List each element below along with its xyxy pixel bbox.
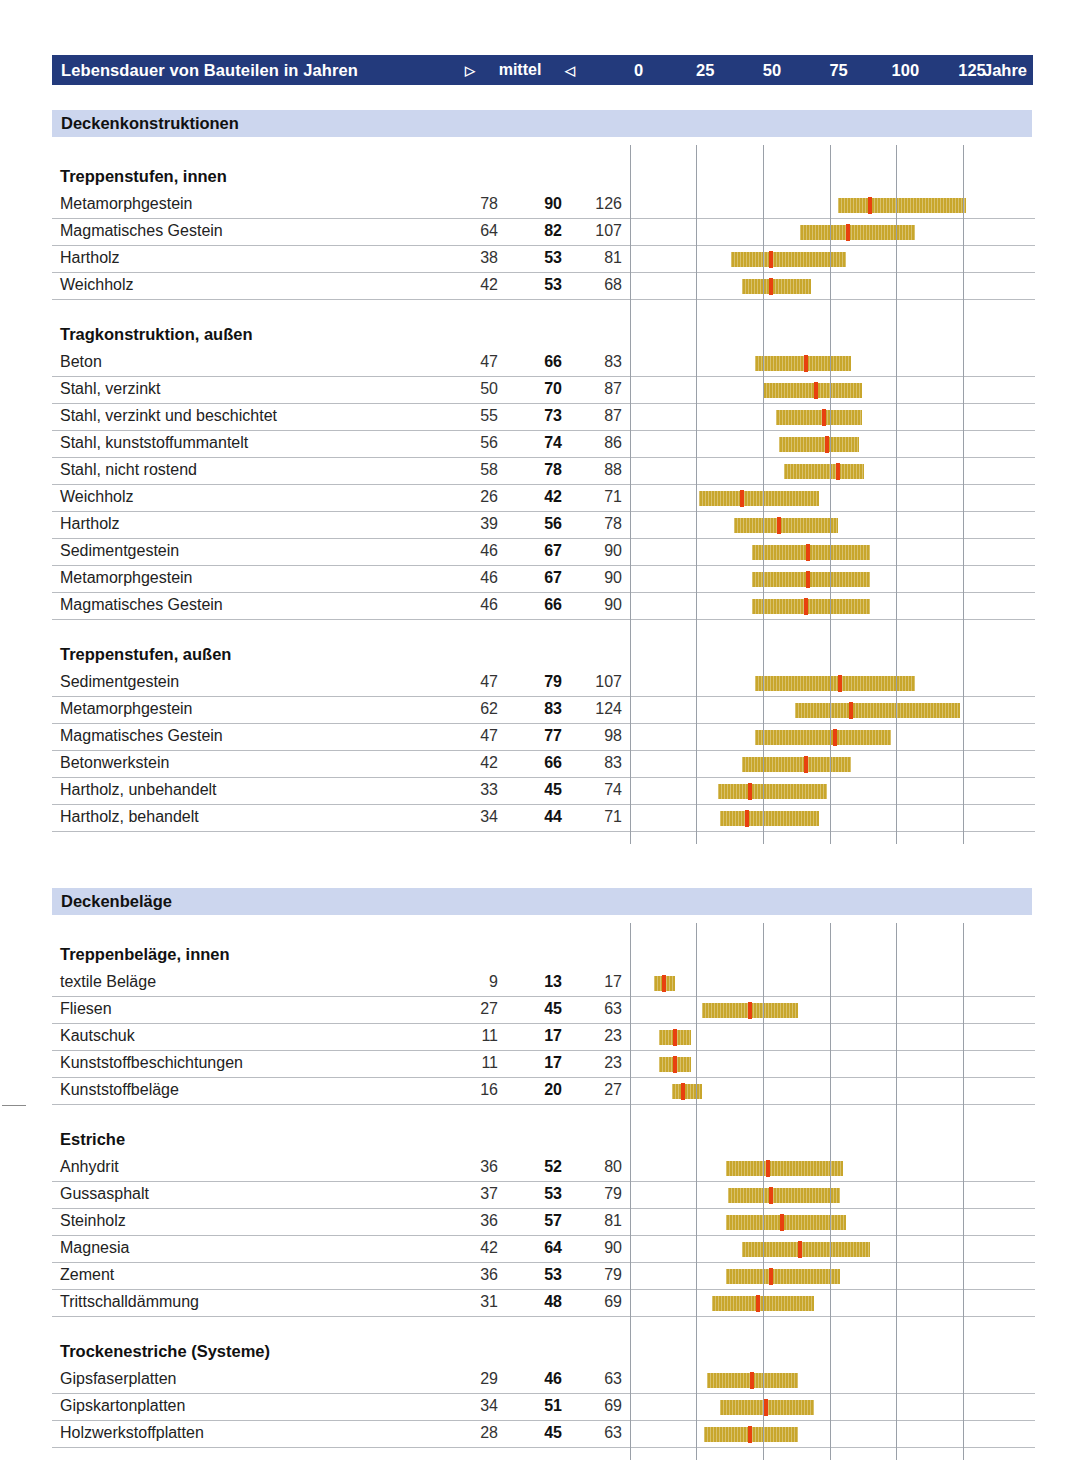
value-min: 26 [438, 488, 498, 506]
row-label: Steinholz [60, 1212, 126, 1230]
group-title-treppenstufen-innen: Treppenstufen, innen [60, 167, 227, 186]
gridline-125 [963, 923, 964, 1460]
axis-tick-25: 25 [696, 61, 714, 80]
value-min: 31 [438, 1293, 498, 1311]
median-marker [769, 1187, 773, 1204]
value-max: 27 [566, 1081, 622, 1099]
section-band-1: Deckenkonstruktionen [52, 110, 1032, 137]
range-bar [742, 279, 811, 294]
value-max: 81 [566, 1212, 622, 1230]
row-label: Hartholz [60, 249, 120, 267]
axis-tick-0: 0 [634, 61, 643, 80]
value-max: 23 [566, 1054, 622, 1072]
table-row: Magmatisches Gestein477798 [52, 724, 1035, 751]
median-marker [868, 197, 872, 214]
value-mittel: 56 [502, 515, 562, 533]
group-title-estriche: Estriche [60, 1130, 125, 1149]
value-min: 28 [438, 1424, 498, 1442]
table-row: Sedimentgestein466790 [52, 539, 1035, 566]
value-max: 88 [566, 461, 622, 479]
value-max: 81 [566, 249, 622, 267]
value-max: 63 [566, 1370, 622, 1388]
value-mittel: 53 [502, 1185, 562, 1203]
value-mittel: 52 [502, 1158, 562, 1176]
value-min: 9 [438, 973, 498, 991]
median-marker [748, 783, 752, 800]
row-label: Magmatisches Gestein [60, 596, 223, 614]
range-bar [752, 545, 869, 560]
value-min: 11 [438, 1027, 498, 1045]
value-max: 74 [566, 781, 622, 799]
gridline-75 [830, 923, 831, 1460]
table-row: Kunststoffbeläge162027 [52, 1078, 1035, 1105]
median-marker [769, 278, 773, 295]
value-max: 71 [566, 808, 622, 826]
value-mittel: 78 [502, 461, 562, 479]
value-mittel: 53 [502, 276, 562, 294]
value-min: 46 [438, 596, 498, 614]
value-mittel: 73 [502, 407, 562, 425]
median-marker [769, 1268, 773, 1285]
group-title-trockenestriche-systeme-: Trockenestriche (Systeme) [60, 1342, 270, 1361]
median-marker [846, 224, 850, 241]
median-marker [804, 756, 808, 773]
value-min: 50 [438, 380, 498, 398]
table-row: Zement365379 [52, 1263, 1035, 1290]
table-row: Weichholz264271 [52, 485, 1035, 512]
header-mittel-label: mittel [484, 61, 556, 79]
range-bar [731, 252, 846, 267]
median-marker [750, 1372, 754, 1389]
value-mittel: 42 [502, 488, 562, 506]
table-row: Fliesen274563 [52, 997, 1035, 1024]
row-label: Beton [60, 353, 102, 371]
value-mittel: 67 [502, 542, 562, 560]
row-separator [52, 831, 1035, 832]
range-bar [726, 1269, 841, 1284]
value-mittel: 64 [502, 1239, 562, 1257]
range-bar [728, 1188, 840, 1203]
value-min: 38 [438, 249, 498, 267]
value-max: 83 [566, 353, 622, 371]
gridline-100 [896, 923, 897, 1460]
median-marker [766, 1160, 770, 1177]
value-min: 16 [438, 1081, 498, 1099]
median-marker [838, 675, 842, 692]
value-mittel: 51 [502, 1397, 562, 1415]
row-label: Sedimentgestein [60, 542, 179, 560]
value-min: 58 [438, 461, 498, 479]
table-row: Metamorphgestein6283124 [52, 697, 1035, 724]
table-row: Weichholz425368 [52, 273, 1035, 300]
value-max: 79 [566, 1266, 622, 1284]
median-marker [806, 544, 810, 561]
value-min: 34 [438, 1397, 498, 1415]
value-max: 80 [566, 1158, 622, 1176]
table-row: Stahl, nicht rostend587888 [52, 458, 1035, 485]
row-label: Kautschuk [60, 1027, 135, 1045]
median-marker [806, 571, 810, 588]
value-max: 83 [566, 754, 622, 772]
row-label: Hartholz, behandelt [60, 808, 199, 826]
median-marker [804, 598, 808, 615]
table-row: Holzwerkstoffplatten284563 [52, 1421, 1035, 1448]
triangle-left-icon: ◁ [556, 63, 584, 78]
value-min: 62 [438, 700, 498, 718]
row-separator [52, 1316, 1035, 1317]
value-min: 42 [438, 754, 498, 772]
median-marker [764, 1399, 768, 1416]
range-bar [742, 757, 851, 772]
median-marker [745, 810, 749, 827]
value-max: 87 [566, 380, 622, 398]
axis-tick-75: 75 [829, 61, 847, 80]
row-label: Hartholz, unbehandelt [60, 781, 217, 799]
table-row: Metamorphgestein7890126 [52, 192, 1035, 219]
row-label: Betonwerkstein [60, 754, 169, 772]
range-bar [734, 518, 838, 533]
value-mittel: 82 [502, 222, 562, 240]
value-mittel: 45 [502, 1424, 562, 1442]
table-row: Steinholz365781 [52, 1209, 1035, 1236]
value-mittel: 67 [502, 569, 562, 587]
median-marker [740, 490, 744, 507]
row-label: Holzwerkstoffplatten [60, 1424, 204, 1442]
table-row: Gipskartonplatten345169 [52, 1394, 1035, 1421]
